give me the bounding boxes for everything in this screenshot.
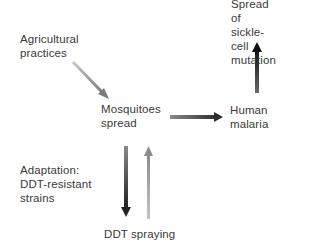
node-sickle-cell-spread: Spread of sickle-cell mutation	[231, 0, 280, 67]
arrow-agricultural-to-mosquitoes	[73, 62, 109, 99]
node-adaptation: Adaptation: DDT-resistant strains	[20, 163, 92, 205]
node-agricultural-practices: Agricultural practices	[20, 32, 79, 60]
node-mosquitoes-spread: Mosquitoes spread	[101, 102, 161, 130]
node-human-malaria: Human malaria	[230, 103, 268, 131]
node-ddt-spraying: DDT spraying	[104, 227, 175, 241]
arrow-ddt-to-mosquitoes	[144, 146, 153, 219]
arrow-mosquitoes-to-malaria	[170, 112, 223, 122]
arrow-mosquitoes-to-ddt	[121, 146, 131, 217]
